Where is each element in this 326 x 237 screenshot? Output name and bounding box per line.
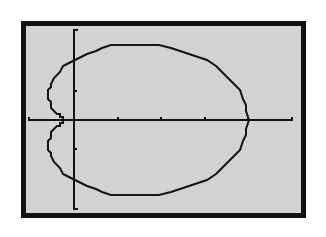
polar-plot: [0, 0, 326, 237]
axes: [28, 29, 293, 210]
